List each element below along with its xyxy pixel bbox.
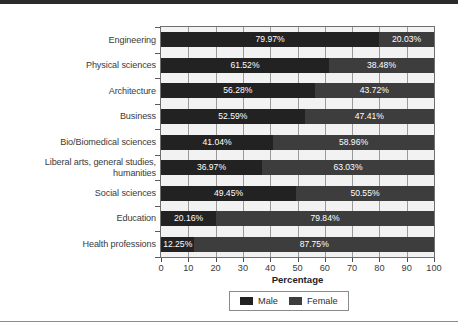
bar-value-label-female: 47.41% [305,109,434,124]
x-axis-tick [325,258,326,262]
bar-row[interactable]: 20.16%79.84% [161,211,434,226]
bar-segment-female[interactable]: 79.84% [216,211,434,226]
y-axis-category-label: Education [8,213,156,224]
y-axis-label-line: Liberal arts, general studies, [45,157,156,167]
bar-row[interactable]: 49.45%50.55% [161,186,434,201]
bar-value-label-male: 79.97% [161,32,379,47]
y-axis-category-label: Liberal arts, general studies,humanities [8,157,156,178]
y-axis-category-label: Physical sciences [8,60,156,71]
bar-value-label-male: 41.04% [161,135,273,150]
y-axis-label-line: Architecture [109,86,156,96]
x-axis-tick-label: 0 [158,263,163,273]
bar-value-label-male: 52.59% [161,109,305,124]
x-axis-tick [407,258,408,262]
bar-value-label-male: 61.52% [161,58,329,73]
y-axis-label-line: Bio/Biomedical sciences [60,137,156,147]
y-axis-label-line: Engineering [109,35,156,45]
x-axis-tick [352,258,353,262]
legend-color-swatch [240,297,253,305]
bar-value-label-female: 43.72% [315,83,434,98]
x-axis-tick-label: 100 [426,263,441,273]
x-axis-tick-label: 60 [320,263,330,273]
y-axis-category-label: Health professions [8,239,156,250]
y-axis-category-label: Social sciences [8,188,156,199]
bar-segment-female[interactable]: 50.55% [296,186,434,201]
legend-label: Female [307,296,338,306]
bar-segment-male[interactable]: 36.97% [161,160,262,175]
bar-value-label-male: 20.16% [161,211,216,226]
bar-value-label-female: 38.48% [329,58,434,73]
bar-value-label-female: 87.75% [194,237,434,252]
y-axis-label-line: Health professions [82,239,156,249]
bar-segment-male[interactable]: 49.45% [161,186,296,201]
bar-value-label-female: 50.55% [296,186,434,201]
x-axis-tick-label: 20 [210,263,220,273]
x-axis-tick-label: 40 [265,263,275,273]
bar-value-label-female: 79.84% [216,211,434,226]
x-axis-tick-label: 90 [402,263,412,273]
x-axis-tick [298,258,299,262]
bar-row[interactable]: 52.59%47.41% [161,109,434,124]
x-axis-tick-label: 80 [374,263,384,273]
bar-segment-female[interactable]: 87.75% [194,237,434,252]
bar-segment-female[interactable]: 20.03% [379,32,434,47]
y-axis-label-line: Education [116,213,156,223]
legend-item[interactable]: Female [289,296,338,306]
bar-segment-female[interactable]: 58.96% [273,135,434,150]
y-axis-label-line: humanities [113,168,156,178]
bar-segment-male[interactable]: 41.04% [161,135,273,150]
bar-value-label-male: 36.97% [161,160,262,175]
y-axis-label-line: Physical sciences [86,60,156,70]
y-axis-category-label: Engineering [8,35,156,46]
bar-segment-male[interactable]: 56.28% [161,83,315,98]
bar-row[interactable]: 36.97%63.03% [161,160,434,175]
y-axis-category-labels: EngineeringPhysical sciencesArchitecture… [8,26,156,258]
bar-row[interactable]: 79.97%20.03% [161,32,434,47]
y-axis-label-line: Business [120,111,156,121]
bar-segment-female[interactable]: 43.72% [315,83,434,98]
plot-area: 79.97%20.03%61.52%38.48%56.28%43.72%52.5… [160,26,435,258]
bar-row[interactable]: 56.28%43.72% [161,83,434,98]
bar-segment-male[interactable]: 61.52% [161,58,329,73]
x-axis-tick-label: 50 [292,263,302,273]
bar-row[interactable]: 41.04%58.96% [161,135,434,150]
bar-value-label-male: 12.25% [161,237,194,252]
x-axis-tick [243,258,244,262]
bar-value-label-female: 63.03% [262,160,434,175]
bar-segment-male[interactable]: 20.16% [161,211,216,226]
x-axis-tick [434,258,435,262]
bar-row[interactable]: 61.52%38.48% [161,58,434,73]
y-axis-label-line: Social sciences [95,188,156,198]
chart-legend: MaleFemale [229,291,349,311]
x-axis-tick [188,258,189,262]
plot-inner: 79.97%20.03%61.52%38.48%56.28%43.72%52.5… [161,27,434,257]
x-axis-title: Percentage [160,274,435,285]
y-axis-category-label: Architecture [8,86,156,97]
stacked-bar-chart: EngineeringPhysical sciencesArchitecture… [0,4,458,321]
bar-value-label-female: 58.96% [273,135,434,150]
x-axis-tick-label: 30 [238,263,248,273]
x-axis-tick-label: 10 [183,263,193,273]
x-axis-tick [379,258,380,262]
y-axis-category-label: Bio/Biomedical sciences [8,137,156,148]
legend-color-swatch [289,297,302,305]
bar-segment-male[interactable]: 52.59% [161,109,305,124]
bar-segment-male[interactable]: 12.25% [161,237,194,252]
bar-segment-male[interactable]: 79.97% [161,32,379,47]
x-axis-tick-label: 70 [347,263,357,273]
bottom-divider-rule [0,321,458,322]
bar-value-label-male: 49.45% [161,186,296,201]
bar-segment-female[interactable]: 47.41% [305,109,434,124]
bar-row[interactable]: 12.25%87.75% [161,237,434,252]
x-axis-tick [216,258,217,262]
legend-item[interactable]: Male [240,296,278,306]
y-axis-category-label: Business [8,111,156,122]
bar-segment-female[interactable]: 63.03% [262,160,434,175]
x-axis-tick [270,258,271,262]
bar-value-label-male: 56.28% [161,83,315,98]
bar-value-label-female: 20.03% [379,32,434,47]
figure-page: EngineeringPhysical sciencesArchitecture… [0,0,458,331]
legend-label: Male [258,296,278,306]
bar-segment-female[interactable]: 38.48% [329,58,434,73]
x-axis-tick [161,258,162,262]
